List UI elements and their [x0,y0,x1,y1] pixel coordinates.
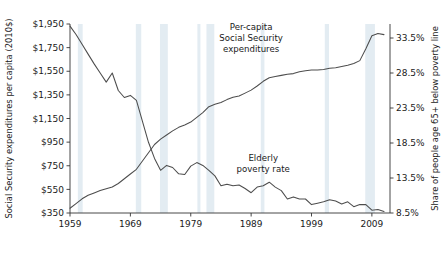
left-axis-tick-label: $1,950 [33,19,65,29]
left-axis-tick-label: $350 [41,208,64,218]
right-axis-tick-label: 33.5% [396,33,425,43]
recession-band [197,24,200,213]
chart-canvas: $350$550$750$950$1,150$1,350$1,550$1,750… [0,0,446,254]
right-axis-tick-label: 8.5% [396,208,419,218]
recession-band [78,24,83,213]
right-axis-tick-label: 13.5% [396,173,425,183]
left-axis-tick-label: $1,350 [33,90,65,100]
recession-band [325,24,329,213]
x-axis-tick-label: 1999 [300,219,323,229]
right-axis-tick-label: 28.5% [396,68,425,78]
recession-band [160,24,168,213]
poverty-annotation: Elderlypoverty rate [237,153,290,174]
x-axis-tick-labels: 195919691979198919992009 [59,219,384,229]
right-axis-tick-labels: 8.5%13.5%18.5%23.5%28.5%33.5% [396,33,425,218]
annotation-line: Social Security [219,33,283,43]
recession-band [206,24,214,213]
annotation-line: poverty rate [237,164,290,174]
left-axis-tick-label: $1,150 [33,114,65,124]
left-axis-tick-labels: $350$550$750$950$1,150$1,350$1,550$1,750… [33,19,65,218]
series-line [70,33,384,208]
recession-band [365,24,375,213]
right-axis-tick-label: 18.5% [396,138,425,148]
annotation-line: Per-capita [230,22,273,32]
right-axis-title: Share of people age 65+ below poverty li… [430,26,440,211]
annotation-line: expenditures [223,44,280,54]
x-axis-tick-label: 1989 [240,219,263,229]
x-axis-tick-label: 1979 [179,219,202,229]
elderly-poverty-vs-ss-expenditures-chart: $350$550$750$950$1,150$1,350$1,550$1,750… [0,0,446,254]
right-axis-tick-label: 23.5% [396,103,425,113]
recession-band [136,24,141,213]
expenditures-annotation: Per-capitaSocial Securityexpenditures [219,22,283,54]
x-axis-tick-label: 1969 [119,219,142,229]
annotation-line: Elderly [248,153,278,163]
left-axis-tick-label: $750 [41,161,64,171]
left-axis-tick-label: $1,750 [33,43,65,53]
left-axis-tick-label: $550 [41,185,64,195]
x-axis-tick-label: 1959 [59,219,82,229]
x-axis-tick-label: 2009 [360,219,383,229]
left-axis-tick-label: $1,550 [33,66,65,76]
left-axis-title: Social Security expenditures per capita … [4,18,14,218]
left-axis-tick-label: $950 [41,137,64,147]
